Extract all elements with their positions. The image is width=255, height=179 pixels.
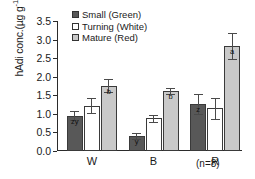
legend-item-small: Small (Green) xyxy=(72,9,147,21)
y-axis-tick xyxy=(53,77,57,78)
legend-swatch-small-icon xyxy=(72,11,79,18)
y-axis-tick-label: 0.5 xyxy=(36,127,51,138)
x-axis-tick-label-b: B xyxy=(150,155,157,167)
y-axis-tick xyxy=(53,58,57,59)
significance-letter: b xyxy=(107,88,111,96)
chart-figure: hAdi conc.(µg g-1FW) 0.00.51.01.52.02.53… xyxy=(0,0,255,179)
sample-size-note: (n=8) xyxy=(196,158,220,169)
y-axis-tick xyxy=(53,21,57,22)
y-axis-tick-label: 3.0 xyxy=(36,34,51,45)
y-axis-tick xyxy=(53,151,57,152)
error-bar-cap xyxy=(149,122,158,123)
error-bar-cap xyxy=(211,98,220,99)
y-axis-tick-label: 0.0 xyxy=(36,146,51,157)
bar-b-turning xyxy=(146,118,162,151)
y-axis-label-main: hAdi conc.(µg g xyxy=(13,6,25,76)
legend-item-mature: Mature (Red) xyxy=(72,32,147,44)
error-bar-cap xyxy=(87,98,96,99)
bar-r-mature xyxy=(224,46,240,151)
error-bar-cap xyxy=(149,115,158,116)
error-bar-cap xyxy=(87,113,96,114)
error-bar xyxy=(153,115,154,122)
x-axis-tick-label-w: W xyxy=(87,155,97,167)
error-bar-cap xyxy=(228,59,237,60)
significance-letter: b xyxy=(168,93,172,101)
error-bar-cap xyxy=(166,88,175,89)
error-bar-cap xyxy=(211,119,220,120)
error-bar-cap xyxy=(228,33,237,34)
legend-label-small: Small (Green) xyxy=(82,9,141,21)
legend-item-turning: Turning (White) xyxy=(72,21,147,33)
y-axis-label: hAdi conc.(µg g-1FW) xyxy=(11,0,25,99)
significance-letter: y xyxy=(135,138,139,146)
error-bar xyxy=(215,98,216,119)
y-axis-tick-label: 1.0 xyxy=(36,109,51,120)
legend: Small (Green) Turning (White) Mature (Re… xyxy=(72,9,147,44)
error-bar-cap xyxy=(132,133,141,134)
error-bar-cap xyxy=(194,114,203,115)
y-axis-tick-label: 3.5 xyxy=(36,16,51,27)
error-bar-cap xyxy=(194,94,203,95)
legend-swatch-mature-icon xyxy=(72,34,79,41)
y-axis-tick-label: 2.0 xyxy=(36,71,51,82)
y-axis-tick xyxy=(53,132,57,133)
y-axis-tick-label: 2.5 xyxy=(36,53,51,64)
error-bar xyxy=(91,98,92,113)
y-axis-tick xyxy=(53,40,57,41)
y-axis-label-exponent: -1 xyxy=(11,0,20,6)
error-bar-cap xyxy=(104,79,113,80)
error-bar-cap xyxy=(70,111,79,112)
legend-label-turning: Turning (White) xyxy=(82,21,147,33)
y-axis-tick-label: 1.5 xyxy=(36,90,51,101)
legend-swatch-turning-icon xyxy=(72,23,79,30)
y-axis-tick xyxy=(53,114,57,115)
y-axis-line xyxy=(57,21,58,151)
y-axis-tick xyxy=(53,95,57,96)
legend-label-mature: Mature (Red) xyxy=(82,32,138,44)
significance-letter: z xyxy=(196,106,200,114)
significance-letter: a xyxy=(230,48,234,56)
significance-letter: zy xyxy=(71,118,79,126)
